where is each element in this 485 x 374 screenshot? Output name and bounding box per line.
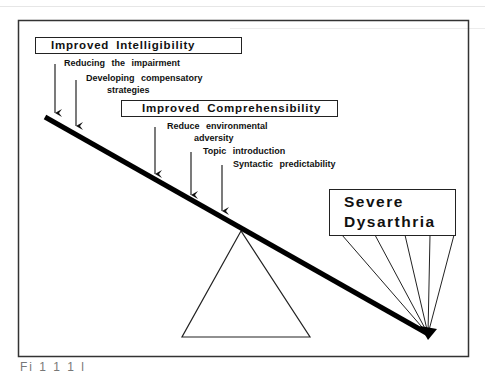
improved-comprehensibility-box: Improved Comprehensibility bbox=[121, 100, 338, 117]
strategies-label: strategies bbox=[107, 85, 150, 95]
dysarthria-label: Dysarthria bbox=[344, 212, 455, 232]
figure-caption-cropped: Fi 1 1 1 l bbox=[20, 360, 86, 374]
improved-intelligibility-box: Improved Intelligibility bbox=[35, 37, 242, 54]
reducing-impairment-label: Reducing the impairment bbox=[64, 58, 180, 68]
adversity-label: adversity bbox=[194, 133, 234, 143]
severe-dysarthria-box: Severe Dysarthria bbox=[329, 189, 456, 236]
syntactic-predictability-label: Syntactic predictability bbox=[233, 159, 336, 169]
developing-strategies-label: Developing compensatory bbox=[86, 73, 203, 83]
reduce-adversity-label: Reduce environmental bbox=[167, 121, 268, 131]
fulcrum-triangle bbox=[182, 231, 310, 337]
topic-introduction-label: Topic introduction bbox=[203, 146, 285, 156]
severe-label: Severe bbox=[344, 192, 455, 212]
